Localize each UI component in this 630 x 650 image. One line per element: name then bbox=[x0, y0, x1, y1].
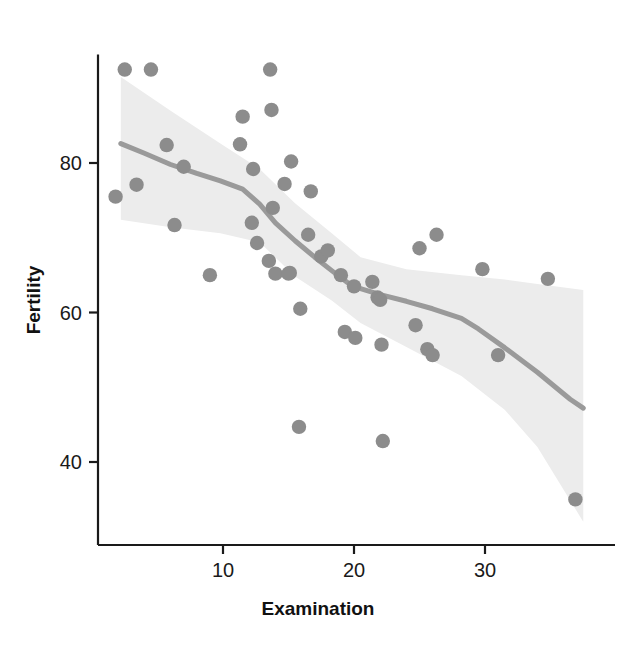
y-tick-label: 40 bbox=[60, 451, 82, 473]
data-point bbox=[167, 218, 181, 232]
data-point bbox=[347, 279, 361, 293]
data-point bbox=[374, 337, 388, 351]
data-point bbox=[263, 62, 277, 76]
data-point bbox=[491, 348, 505, 362]
data-point bbox=[118, 62, 132, 76]
data-point bbox=[412, 241, 426, 255]
data-point bbox=[475, 262, 489, 276]
data-point bbox=[334, 268, 348, 282]
y-tick-label: 60 bbox=[60, 302, 82, 324]
data-point bbox=[365, 275, 379, 289]
data-point bbox=[159, 138, 173, 152]
data-point bbox=[304, 184, 318, 198]
y-tick-label: 80 bbox=[60, 152, 82, 174]
chart-canvas: 406080 102030 Examination Fertility bbox=[0, 0, 630, 650]
data-point bbox=[376, 434, 390, 448]
data-point bbox=[284, 154, 298, 168]
x-tick-label: 10 bbox=[212, 559, 234, 581]
data-point bbox=[281, 266, 295, 280]
data-point bbox=[348, 331, 362, 345]
x-axis-ticks: 102030 bbox=[212, 545, 496, 581]
data-point bbox=[235, 109, 249, 123]
data-point bbox=[177, 160, 191, 174]
y-axis-ticks: 406080 bbox=[60, 152, 98, 473]
scatter-plot-figure: 406080 102030 Examination Fertility bbox=[0, 0, 630, 650]
data-point bbox=[129, 177, 143, 191]
data-point bbox=[373, 293, 387, 307]
data-point bbox=[268, 266, 282, 280]
data-point bbox=[293, 302, 307, 316]
data-point bbox=[301, 228, 315, 242]
data-point bbox=[108, 189, 122, 203]
data-point bbox=[144, 62, 158, 76]
confidence-band-area bbox=[121, 77, 583, 522]
data-point bbox=[250, 236, 264, 250]
data-point bbox=[262, 254, 276, 268]
x-axis-title: Examination bbox=[262, 598, 375, 619]
data-point bbox=[233, 137, 247, 151]
data-point bbox=[425, 348, 439, 362]
data-point bbox=[246, 162, 260, 176]
data-point bbox=[568, 492, 582, 506]
x-tick-label: 30 bbox=[474, 559, 496, 581]
data-point bbox=[408, 318, 422, 332]
x-tick-label: 20 bbox=[343, 559, 365, 581]
y-axis-title: Fertility bbox=[23, 265, 44, 334]
data-point bbox=[266, 201, 280, 215]
data-point bbox=[245, 216, 259, 230]
data-point bbox=[277, 177, 291, 191]
data-point bbox=[292, 420, 306, 434]
data-point bbox=[429, 228, 443, 242]
data-point bbox=[321, 243, 335, 257]
data-point bbox=[203, 268, 217, 282]
data-point bbox=[264, 103, 278, 117]
confidence-band bbox=[121, 77, 583, 522]
data-point bbox=[541, 272, 555, 286]
